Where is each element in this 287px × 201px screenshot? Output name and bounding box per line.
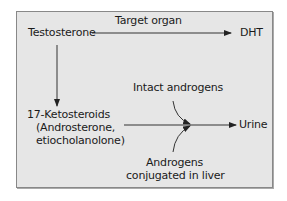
node-urine: Urine [239,119,267,131]
node-ketosteroids-line1: 17-Ketosteroids [27,109,110,121]
node-dht: DHT [240,27,263,39]
arrow-intact-androgens [173,101,190,124]
arrow-conjugated-androgens [173,126,190,152]
node-testosterone: Testosterone [28,27,96,39]
node-ketosteroids-line3: etiocholanolone) [36,135,125,147]
node-ketosteroids-line2: (Androsterone, [36,122,115,134]
edge-label-target-organ: Target organ [115,15,182,27]
edge-label-intact-androgens: Intact androgens [133,82,223,94]
edge-label-conjugated-line2: conjugated in liver [126,170,225,182]
edge-label-conjugated-line1: Androgens [146,157,203,169]
